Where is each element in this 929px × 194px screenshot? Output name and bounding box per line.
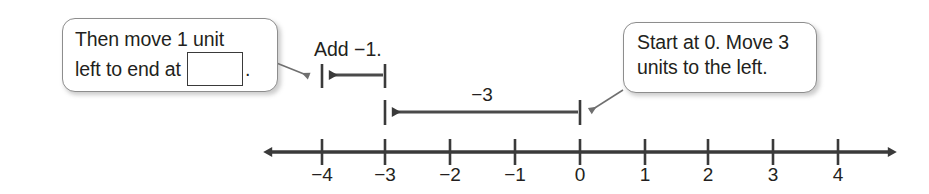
answer-input-box[interactable]	[187, 52, 243, 86]
tick-label-four: 4	[818, 164, 858, 186]
tick-label-minus2: −2	[430, 164, 470, 186]
tick-label-three: 3	[753, 164, 793, 186]
tick-label-zero: 0	[560, 164, 600, 186]
then-move-callout-line2: left to end at .	[75, 52, 277, 86]
then-move-callout-line1: Then move 1 unit	[75, 27, 277, 52]
right-callout-leader-line	[590, 90, 623, 111]
tick-label-two: 2	[688, 164, 728, 186]
add-minus-one-label: Add −1.	[314, 38, 382, 61]
tick-label-one: 1	[625, 164, 665, 186]
start-at-zero-callout[interactable]: Start at 0. Move 3 units to the left.	[623, 22, 817, 93]
number-line-figure: Then move 1 unit left to end at . Start …	[0, 0, 929, 194]
start-at-zero-callout-line1: Start at 0. Move 3	[637, 30, 816, 55]
tick-label-minus3: −3	[365, 164, 405, 186]
jump-minus-three-label: −3	[462, 84, 502, 106]
tick-label-minus4: −4	[302, 164, 342, 186]
then-move-callout-line2-text: left to end at	[75, 57, 181, 82]
then-move-callout[interactable]: Then move 1 unit left to end at .	[62, 18, 278, 92]
start-at-zero-callout-line2: units to the left.	[637, 55, 816, 80]
left-callout-leader-line	[274, 62, 309, 76]
then-move-callout-period: .	[245, 57, 250, 82]
jump-minus-one-arrow	[322, 64, 385, 88]
tick-label-minus1: −1	[495, 164, 535, 186]
